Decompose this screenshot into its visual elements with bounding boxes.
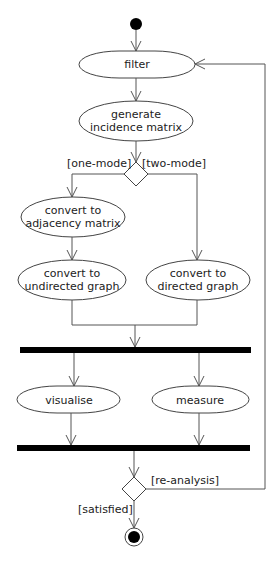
action-directed-line2: directed graph xyxy=(158,280,239,293)
activity-diagram: filter generate incidence matrix [one-mo… xyxy=(0,0,276,567)
guard-two-mode: [two-mode] xyxy=(142,157,206,170)
action-adjacency-line2: adjacency matrix xyxy=(25,217,121,230)
action-directed-line1: convert to xyxy=(170,267,227,280)
edge-decision-directed xyxy=(148,174,197,260)
decision-end xyxy=(122,477,146,501)
guard-re-analysis: [re-analysis] xyxy=(151,474,219,487)
edge-decision-adjacency xyxy=(72,174,124,197)
action-generate-line1: generate xyxy=(111,108,161,121)
guard-one-mode: [one-mode] xyxy=(67,157,131,170)
action-filter-label: filter xyxy=(124,58,150,71)
action-undirected-line1: convert to xyxy=(44,267,101,280)
fork-bar xyxy=(20,347,251,353)
action-measure-label: measure xyxy=(176,394,224,407)
action-visualise-label: visualise xyxy=(45,394,93,407)
action-undirected-line2: undirected graph xyxy=(25,280,120,293)
join-bar xyxy=(17,445,250,451)
action-generate-line2: incidence matrix xyxy=(90,121,183,134)
edge-undirected-merge xyxy=(72,300,197,325)
action-adjacency-line1: convert to xyxy=(45,204,102,217)
final-node-dot xyxy=(128,531,140,543)
guard-satisfied: [satisfied] xyxy=(78,503,133,516)
initial-node xyxy=(130,18,142,30)
